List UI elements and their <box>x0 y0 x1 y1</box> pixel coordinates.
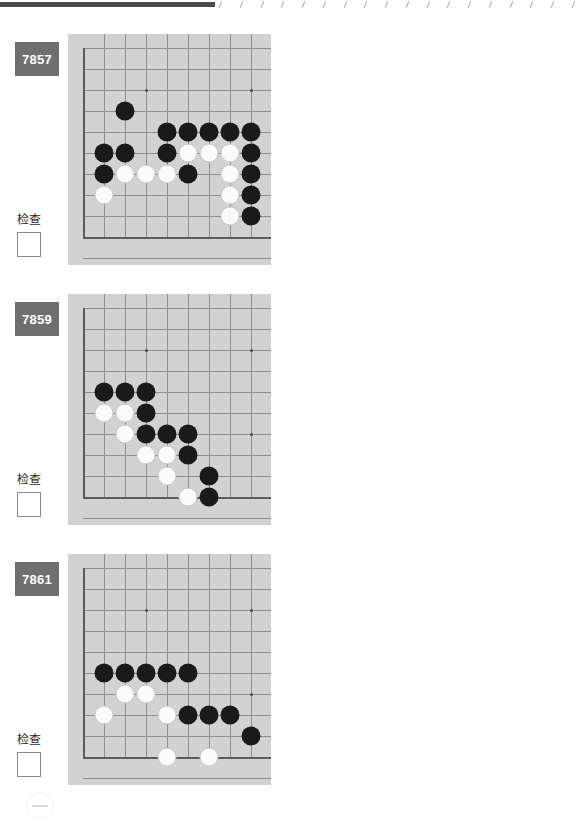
grid-line-horizontal <box>83 350 271 351</box>
white-stone <box>158 748 177 767</box>
white-stone <box>116 425 135 444</box>
grid-line-vertical <box>125 34 126 237</box>
white-stone <box>221 186 240 205</box>
tick-mark-icon <box>446 0 452 10</box>
tick-mark-icon <box>363 0 369 10</box>
tick-mark-icon <box>509 0 515 10</box>
hoshi-point-icon <box>250 349 253 352</box>
go-board-7857[interactable] <box>68 34 271 265</box>
black-stone <box>137 425 156 444</box>
problem-cell: 7858检查 <box>290 14 577 274</box>
hoshi-point-icon <box>250 693 253 696</box>
grid-line-horizontal <box>83 69 271 70</box>
grid-line-vertical <box>104 554 105 757</box>
black-stone <box>242 123 261 142</box>
check-label: 检查 <box>17 214 61 226</box>
tick-mark-icon <box>280 0 286 10</box>
tick-mark-icon <box>218 0 224 10</box>
problem-id-badge: 7857 <box>15 42 59 76</box>
go-board-7861[interactable] <box>68 554 271 785</box>
tick-mark-icon <box>571 0 577 10</box>
tick-mark-icon <box>550 0 556 10</box>
grid-line-vertical <box>83 568 85 757</box>
black-stone <box>242 186 261 205</box>
check-answer-checkbox[interactable] <box>17 752 41 777</box>
grid-line-vertical <box>146 34 147 237</box>
white-stone <box>158 467 177 486</box>
black-stone <box>95 383 114 402</box>
black-stone <box>116 664 135 683</box>
grid-line-vertical <box>104 34 105 237</box>
hoshi-point-icon <box>145 349 148 352</box>
black-stone <box>200 467 219 486</box>
grid-line-horizontal <box>83 694 271 695</box>
grid-line-horizontal <box>83 308 271 309</box>
grid-line-horizontal <box>83 455 271 456</box>
grid-line-horizontal <box>83 476 271 477</box>
black-stone <box>137 383 156 402</box>
grid-line-vertical <box>125 554 126 757</box>
tick-mark-icon <box>301 0 307 10</box>
grid-line-horizontal <box>83 631 271 632</box>
check-label: 检查 <box>17 734 61 746</box>
problem-cell: 7861检查 <box>0 534 290 794</box>
grid-line-horizontal <box>83 568 271 569</box>
black-stone <box>179 165 198 184</box>
problem-cell: 7859检查 <box>0 274 290 534</box>
black-stone <box>221 706 240 725</box>
header-rule-bar <box>0 2 215 7</box>
black-stone <box>116 102 135 121</box>
black-stone <box>179 446 198 465</box>
tick-mark-icon <box>239 0 245 10</box>
grid-line-horizontal <box>83 48 271 49</box>
tick-mark-icon <box>322 0 328 10</box>
page-footer-mark <box>26 792 54 820</box>
white-stone <box>116 404 135 423</box>
tick-mark-icon <box>426 0 432 10</box>
black-stone <box>95 144 114 163</box>
grid-line-vertical <box>251 294 252 497</box>
white-stone <box>179 488 198 507</box>
black-stone <box>158 664 177 683</box>
white-stone <box>158 165 177 184</box>
grid-line-vertical <box>188 294 189 497</box>
grid-line-horizontal <box>83 497 271 499</box>
grid-line-horizontal <box>83 329 271 330</box>
grid-line-horizontal <box>83 778 271 779</box>
white-stone <box>116 685 135 704</box>
problem-sidebar: 7861检查 <box>15 562 63 777</box>
grid-line-horizontal <box>83 610 271 611</box>
problem-cell: 7860检查 <box>290 274 577 534</box>
tick-mark-icon <box>529 0 535 10</box>
check-group: 检查 <box>17 474 61 517</box>
check-answer-checkbox[interactable] <box>17 492 41 517</box>
grid-line-vertical <box>146 554 147 757</box>
black-stone <box>179 425 198 444</box>
tick-mark-icon <box>488 0 494 10</box>
check-answer-checkbox[interactable] <box>17 232 41 257</box>
black-stone <box>116 144 135 163</box>
black-stone <box>242 165 261 184</box>
grid-line-vertical <box>230 294 231 497</box>
check-group: 检查 <box>17 214 61 257</box>
white-stone <box>137 165 156 184</box>
tick-mark-icon <box>405 0 411 10</box>
white-stone <box>221 144 240 163</box>
problem-sidebar: 7859检查 <box>15 302 63 517</box>
white-stone <box>116 165 135 184</box>
white-stone <box>200 144 219 163</box>
go-board-7859[interactable] <box>68 294 271 525</box>
check-label: 检查 <box>17 474 61 486</box>
hoshi-point-icon <box>250 89 253 92</box>
black-stone <box>179 664 198 683</box>
grid-line-horizontal <box>83 589 271 590</box>
white-stone <box>95 404 114 423</box>
tick-mark-icon <box>384 0 390 10</box>
grid-line-horizontal <box>83 258 271 259</box>
black-stone <box>158 425 177 444</box>
white-stone <box>200 748 219 767</box>
hoshi-point-icon <box>145 609 148 612</box>
grid-line-vertical <box>83 48 85 237</box>
white-stone <box>95 186 114 205</box>
grid-line-vertical <box>230 554 231 757</box>
